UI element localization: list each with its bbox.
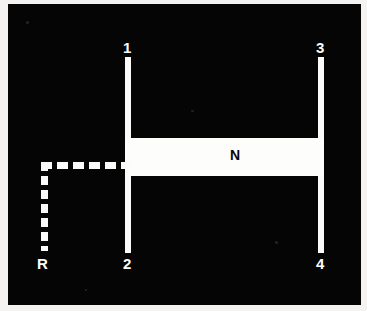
diagram-canvas: 1 3 2 4 R N <box>8 4 361 305</box>
label-return-path-r: R <box>37 256 48 271</box>
conductor-band-n <box>125 138 324 176</box>
label-terminal-3: 3 <box>316 40 324 55</box>
scan-speckle <box>85 289 87 291</box>
label-terminal-1: 1 <box>123 40 131 55</box>
label-terminal-2: 2 <box>123 256 131 271</box>
dashed-return-path-vertical <box>41 162 48 251</box>
figure-root: 1 3 2 4 R N <box>0 0 367 311</box>
dashed-return-path-horizontal <box>41 162 129 169</box>
scan-speckle <box>275 241 278 244</box>
scan-speckle <box>191 110 194 112</box>
scan-speckle <box>26 21 29 24</box>
label-band-n: N <box>230 148 240 162</box>
label-terminal-4: 4 <box>316 256 324 271</box>
